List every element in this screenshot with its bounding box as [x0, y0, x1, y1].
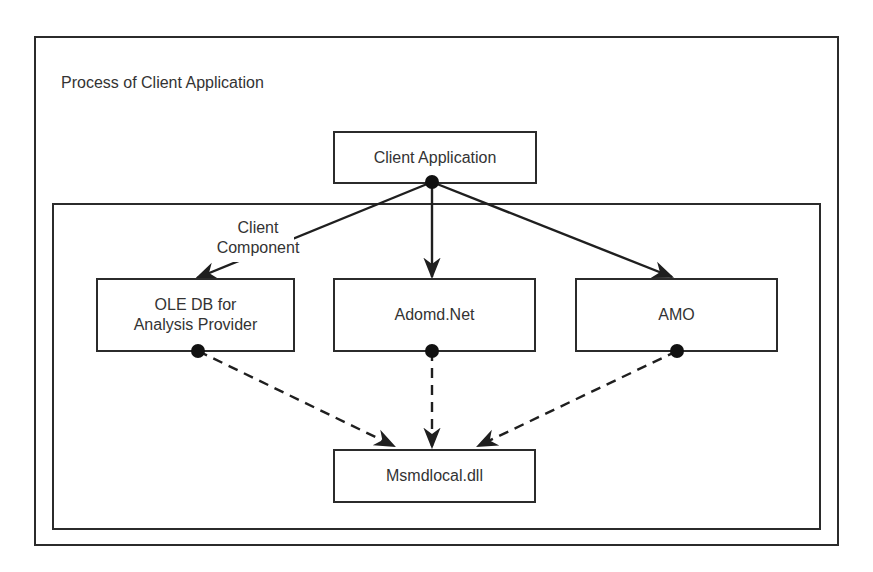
- dot-ole-db: [191, 344, 205, 358]
- connection-dots: [0, 0, 873, 572]
- dot-client-application: [425, 175, 439, 189]
- dot-amo: [670, 344, 684, 358]
- dot-adomd-net: [425, 344, 439, 358]
